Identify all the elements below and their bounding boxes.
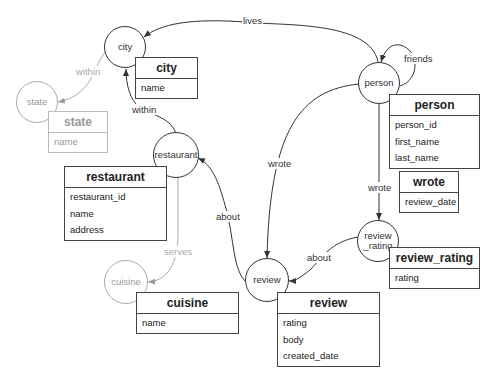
edge-label-rating-about: about (306, 252, 332, 263)
table-cuisine[interactable]: cuisine name (136, 292, 239, 334)
table-wrote-field: review_date (400, 194, 458, 211)
table-review-field: body (278, 332, 379, 349)
table-cuisine-field: name (137, 315, 238, 332)
edge-label-person-wrote-review: wrote (267, 158, 292, 169)
table-person-field: first_name (390, 134, 479, 151)
edge-label-city-within: within (75, 66, 101, 77)
table-state[interactable]: state name (48, 111, 108, 153)
table-review[interactable]: review rating body created_date (277, 292, 380, 367)
table-review-field: rating (278, 315, 379, 332)
edge-label-restaurant-within: within (131, 104, 157, 115)
table-person[interactable]: person person_id first_name last_name (389, 94, 480, 169)
node-review-label: review (253, 275, 280, 285)
table-city[interactable]: city name (135, 57, 198, 99)
node-city-label: city (118, 42, 132, 52)
table-review-field: created_date (278, 348, 379, 365)
table-person-title: person (390, 95, 479, 116)
edge-label-friends: friends (403, 53, 434, 64)
edge-city-within (58, 52, 105, 102)
table-restaurant-field: restaurant_id (65, 189, 166, 206)
edge-label-person-wrote-rating: wrote (367, 182, 392, 193)
table-restaurant-field: address (65, 222, 166, 239)
table-person-field: person_id (390, 117, 479, 134)
node-person-label: person (364, 78, 393, 88)
table-state-title: state (49, 112, 107, 133)
node-state-label: state (27, 97, 48, 107)
table-city-title: city (136, 58, 197, 79)
node-restaurant-label: restaurant (155, 150, 198, 160)
table-review-title: review (278, 293, 379, 314)
table-state-field: name (49, 134, 107, 151)
table-city-field: name (136, 80, 197, 97)
table-wrote-title: wrote (400, 172, 458, 193)
edge-person-wrote-review (267, 84, 359, 258)
table-restaurant-title: restaurant (65, 167, 166, 188)
node-cuisine-label: cuisine (111, 277, 141, 287)
edge-label-lives: lives (242, 15, 263, 26)
table-review-rating-field: rating (390, 270, 479, 287)
edge-label-serves: serves (163, 246, 193, 257)
table-cuisine-title: cuisine (137, 293, 238, 314)
edge-lives (144, 21, 378, 62)
table-restaurant[interactable]: restaurant restaurant_id name address (64, 166, 167, 241)
table-person-field: last_name (390, 150, 479, 167)
table-wrote[interactable]: wrote review_date (399, 171, 459, 213)
table-review-rating[interactable]: review_rating rating (389, 247, 480, 289)
table-restaurant-field: name (65, 206, 166, 223)
table-review-rating-title: review_rating (390, 248, 479, 269)
edge-label-review-about: about (215, 211, 241, 222)
